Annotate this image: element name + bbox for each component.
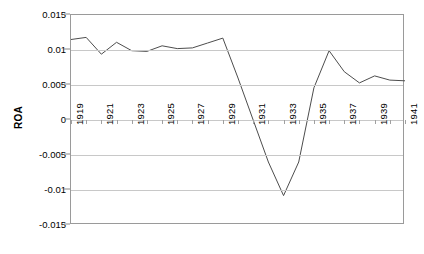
roa-line-chart: ROA 0.0150.010.0050-0.005-0.01-0.015 191… xyxy=(0,0,424,254)
x-tick-mark xyxy=(390,120,391,124)
y-tick-label: 0.005 xyxy=(20,79,66,90)
x-tick-mark xyxy=(314,120,315,124)
x-tick-mark xyxy=(268,120,269,124)
x-tick-mark xyxy=(299,120,300,124)
y-tick-mark xyxy=(64,119,70,120)
x-tick-mark xyxy=(86,120,87,124)
gridline xyxy=(71,50,403,51)
y-tick-label: -0.015 xyxy=(20,219,66,230)
x-tick-mark xyxy=(223,120,224,124)
y-tick-label: 0 xyxy=(20,114,66,125)
gridline xyxy=(71,155,403,156)
gridline xyxy=(71,190,403,191)
y-tick-mark xyxy=(64,224,70,225)
y-tick-mark xyxy=(64,14,70,15)
x-tick-mark xyxy=(284,120,285,124)
x-tick-mark xyxy=(329,120,330,124)
y-tick-label: 0.015 xyxy=(20,9,66,20)
y-tick-mark xyxy=(64,49,70,50)
x-tick-mark xyxy=(405,120,406,124)
x-tick-mark xyxy=(344,120,345,124)
x-tick-mark xyxy=(208,120,209,124)
x-tick-mark xyxy=(101,120,102,124)
x-tick-mark xyxy=(147,120,148,124)
x-tick-mark xyxy=(192,120,193,124)
y-tick-label: -0.005 xyxy=(20,149,66,160)
y-tick-mark xyxy=(64,154,70,155)
x-tick-mark xyxy=(253,120,254,124)
gridline xyxy=(71,120,403,121)
roa-data-line xyxy=(71,37,405,195)
x-tick-mark xyxy=(71,120,72,124)
y-tick-mark xyxy=(64,84,70,85)
y-tick-mark xyxy=(64,189,70,190)
gridline xyxy=(71,85,403,86)
x-tick-mark xyxy=(177,120,178,124)
x-tick-label: 1941 xyxy=(408,103,419,125)
y-tick-label: -0.01 xyxy=(20,184,66,195)
plot-area xyxy=(70,14,404,224)
x-tick-mark xyxy=(117,120,118,124)
x-tick-mark xyxy=(162,120,163,124)
x-tick-mark xyxy=(375,120,376,124)
x-tick-mark xyxy=(132,120,133,124)
x-tick-mark xyxy=(359,120,360,124)
y-axis-tick-labels: 0.0150.010.0050-0.005-0.01-0.015 xyxy=(16,0,66,254)
y-tick-label: 0.01 xyxy=(20,44,66,55)
x-tick-mark xyxy=(238,120,239,124)
